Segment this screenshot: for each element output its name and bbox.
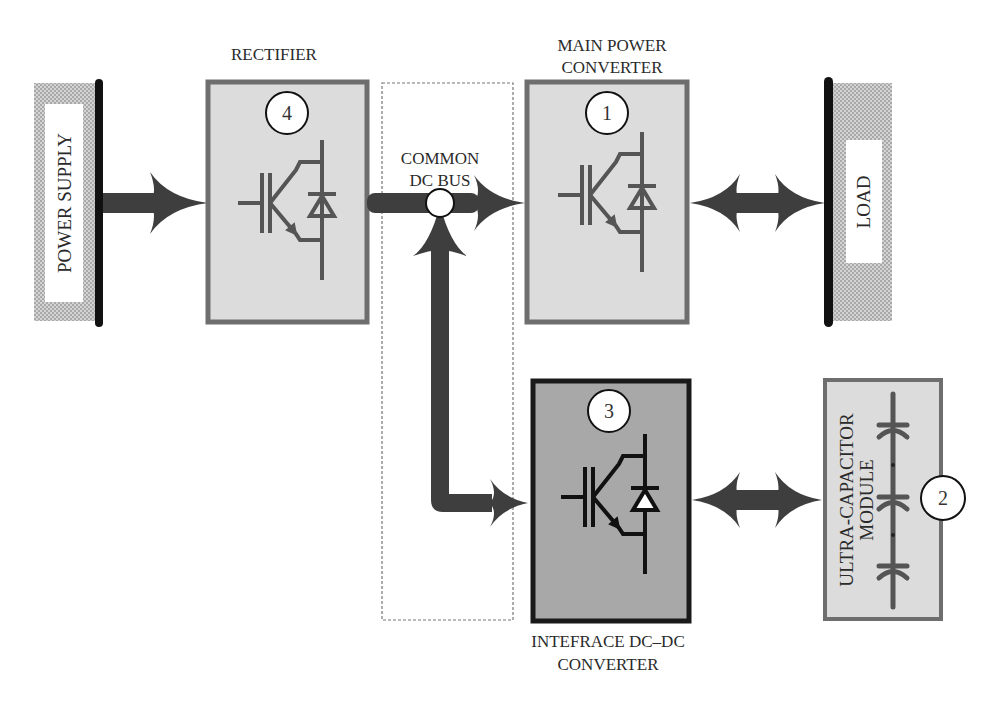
rectifier-title: RECTIFIER bbox=[231, 45, 318, 64]
arrow-power-to-rectifier bbox=[103, 172, 208, 234]
dc-bus-title-line1: COMMON bbox=[401, 149, 479, 168]
load-block: LOAD bbox=[824, 77, 892, 327]
arrow-main-to-load bbox=[690, 174, 825, 232]
ultracap-number-badge: 2 bbox=[938, 487, 948, 509]
dc-bus-node bbox=[426, 189, 454, 217]
power-supply-block: POWER SUPPLY bbox=[34, 79, 103, 327]
power-supply-label: POWER SUPPLY bbox=[54, 133, 75, 273]
power-system-diagram: POWER SUPPLY RECTIFIER 4 COMMON DC BUS M… bbox=[0, 0, 999, 705]
interface-converter-block: 3 INTEFRACE DC–DC CONVERTER bbox=[531, 381, 689, 674]
ultracap-label-line1: ULTRA-CAPACITOR bbox=[836, 413, 857, 587]
interface-converter-number-badge: 3 bbox=[604, 400, 614, 422]
power-supply-bus-bar bbox=[95, 79, 103, 327]
main-converter-title-line2: CONVERTER bbox=[562, 58, 664, 77]
ultracapacitor-block: ULTRA-CAPACITOR MODULE 2 bbox=[825, 380, 965, 619]
load-label: LOAD bbox=[853, 176, 874, 229]
ultracap-label-line2: MODULE bbox=[856, 459, 877, 540]
rectifier-block: RECTIFIER 4 bbox=[208, 45, 367, 322]
arrow-interface-to-ultracap bbox=[692, 472, 822, 528]
interface-converter-title-line2: CONVERTER bbox=[558, 655, 660, 674]
dc-bus-title-line2: DC BUS bbox=[410, 171, 471, 190]
main-converter-title-line1: MAIN POWER bbox=[557, 36, 667, 55]
main-converter-number-badge: 1 bbox=[602, 102, 612, 124]
arrow-bus-to-interface bbox=[413, 205, 528, 527]
load-bus-bar bbox=[824, 77, 833, 327]
rectifier-number-badge: 4 bbox=[282, 102, 292, 124]
interface-converter-title-line1: INTEFRACE DC–DC bbox=[531, 632, 684, 651]
main-converter-block: MAIN POWER CONVERTER 1 bbox=[527, 36, 687, 322]
